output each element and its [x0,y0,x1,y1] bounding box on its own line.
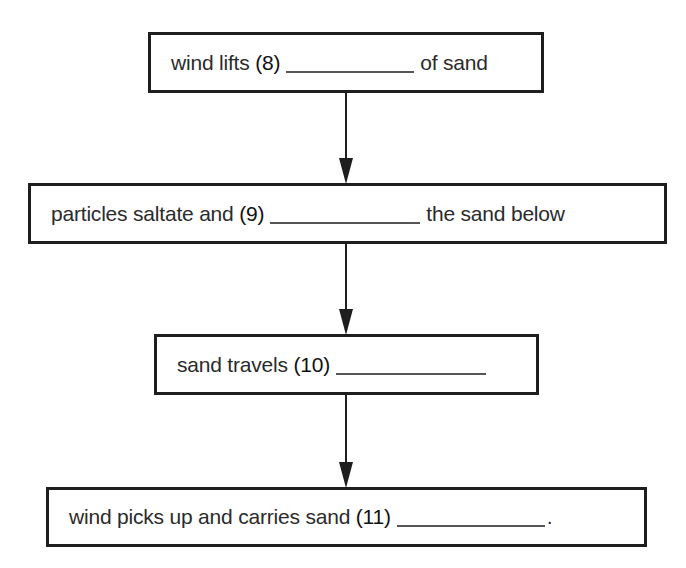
step-4-blank[interactable] [397,507,545,527]
step-2-blank[interactable] [270,204,420,224]
step-2-suffix: the sand below [426,202,564,226]
flow-step-2: particles saltate and (9) the sand below [28,183,667,244]
step-3-blank[interactable] [336,355,486,375]
step-4-suffix: . [547,505,553,529]
step-1-text: wind lifts [171,51,250,75]
step-3-number: (10) [293,353,330,377]
arrowhead-icon [339,309,353,335]
flow-step-3: sand travels (10) [154,334,539,395]
arrowhead-icon [339,462,353,488]
flow-step-1: wind lifts (8) of sand [148,32,544,93]
down-arrow-icon [345,395,347,465]
step-1-number: (8) [255,51,280,75]
down-arrow-icon [345,93,347,163]
step-2-text: particles saltate and [51,202,234,226]
step-4-text: wind picks up and carries sand [69,505,350,529]
step-1-blank[interactable] [286,53,414,73]
down-arrow-icon [345,244,347,314]
arrowhead-icon [339,158,353,184]
step-1-suffix: of sand [420,51,488,75]
flow-step-4: wind picks up and carries sand (11) . [46,487,647,547]
step-3-text: sand travels [177,353,288,377]
step-2-number: (9) [239,202,264,226]
step-4-number: (11) [356,505,391,529]
